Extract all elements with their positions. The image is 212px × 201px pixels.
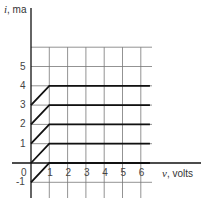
x-axis-label: v, volts — [162, 168, 193, 179]
y-tick-label: 3 — [20, 100, 26, 110]
x-tick-label: 5 — [121, 168, 127, 178]
x-tick-label: 4 — [102, 168, 108, 178]
y-axis-label: i, ma — [4, 4, 27, 15]
y-tick-label: 4 — [20, 81, 26, 91]
x-tick-label: 1 — [47, 168, 53, 178]
x-axis-unit: , volts — [167, 168, 193, 179]
curve-I=4 — [31, 86, 150, 105]
curve-I=3 — [31, 105, 150, 124]
y-axis-unit: , ma — [7, 4, 26, 15]
y-tick-label: -1 — [16, 177, 25, 187]
curve-I=1 — [31, 144, 150, 163]
curve-I=2 — [31, 124, 150, 143]
x-tick-label: 6 — [139, 168, 145, 178]
y-tick-label: 2 — [20, 119, 26, 129]
y-tick-label: 5 — [20, 62, 26, 72]
x-tick-label: 2 — [66, 168, 72, 178]
x-tick-label: 3 — [84, 168, 90, 178]
y-tick-label: 1 — [20, 139, 26, 149]
